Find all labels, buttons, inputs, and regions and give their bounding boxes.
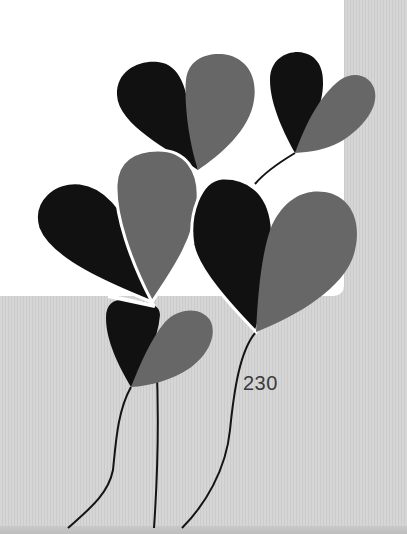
- balloon-top-right: [270, 52, 375, 153]
- balloon-lower-center: [106, 296, 213, 387]
- balloon-artwork: [0, 0, 407, 534]
- balloon-middle-left: [36, 150, 198, 302]
- balloon-middle-right: [192, 178, 357, 332]
- number-label: 230: [243, 372, 278, 395]
